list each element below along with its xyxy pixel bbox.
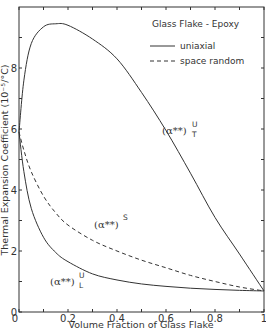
x-tick-label: 1 bbox=[261, 313, 266, 324]
label-alpha-s: (α**) S bbox=[94, 213, 128, 230]
y-tick-label: 6 bbox=[11, 124, 17, 135]
legend-uniaxial: uniaxial bbox=[180, 41, 215, 51]
label-ul-sup: U bbox=[79, 271, 85, 280]
x-axis-title: Volume Fraction of Glass Flake bbox=[68, 319, 213, 330]
label-s-sup: S bbox=[123, 213, 128, 222]
label-s-main: (α**) bbox=[94, 219, 119, 230]
label-ul-main: (α**) bbox=[50, 276, 75, 287]
series-line-2 bbox=[19, 132, 264, 291]
label-ut-main: (α**) bbox=[162, 125, 187, 136]
series-line-1 bbox=[19, 132, 264, 291]
label-alpha-ut: (α**) U T bbox=[162, 120, 198, 139]
label-ut-sub: T bbox=[191, 130, 197, 139]
y-tick-label: 8 bbox=[11, 63, 17, 74]
label-ul-sub: L bbox=[79, 281, 84, 290]
y-tick-label: 2 bbox=[11, 246, 17, 257]
y-tick-label: 4 bbox=[11, 185, 17, 196]
legend-space-random: space random bbox=[180, 56, 244, 66]
thermal-expansion-chart: 00.20.40.60.8102468 Glass Flake - Epoxy … bbox=[0, 0, 266, 333]
plot-border bbox=[19, 7, 264, 312]
legend-title: Glass Flake - Epoxy bbox=[152, 19, 240, 29]
y-axis-title: Thermal Expansion Coefficient (10⁻⁵/°C) bbox=[0, 65, 10, 257]
legend: Glass Flake - Epoxy uniaxial space rando… bbox=[150, 19, 244, 66]
axis-ticks: 00.20.40.60.8102468 bbox=[11, 7, 266, 324]
label-alpha-ul: (α**) U L bbox=[50, 271, 85, 290]
label-ut-sup: U bbox=[192, 120, 198, 129]
y-tick-label: 0 bbox=[11, 307, 17, 318]
plot-frame bbox=[19, 7, 264, 312]
